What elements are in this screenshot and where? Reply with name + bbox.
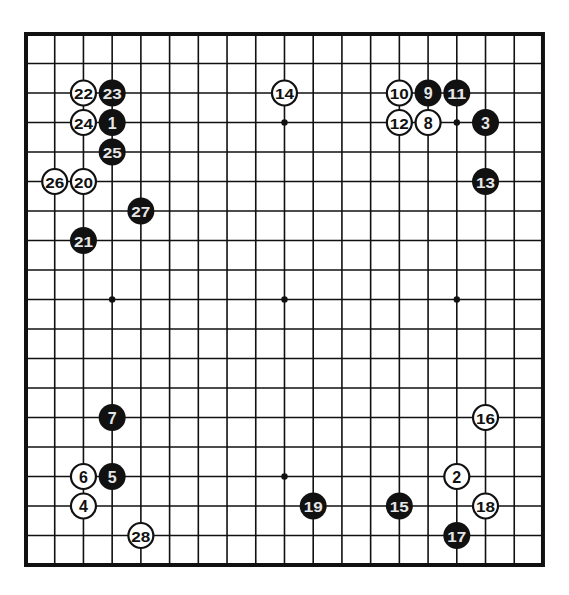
star-point bbox=[454, 296, 460, 302]
move-number: 18 bbox=[476, 498, 495, 515]
black-stone-13: 13 bbox=[472, 168, 499, 195]
move-number: 15 bbox=[390, 498, 409, 515]
move-number: 6 bbox=[79, 469, 88, 486]
white-stone-18: 18 bbox=[473, 494, 498, 519]
black-stone-7: 7 bbox=[99, 404, 126, 431]
move-number: 22 bbox=[74, 85, 93, 102]
move-number: 21 bbox=[74, 233, 93, 250]
move-number: 11 bbox=[447, 85, 466, 102]
move-number: 25 bbox=[103, 144, 122, 161]
star-point bbox=[109, 296, 115, 302]
move-number: 24 bbox=[74, 115, 94, 132]
move-number: 26 bbox=[45, 174, 64, 191]
black-stone-3: 3 bbox=[472, 109, 499, 136]
black-stone-23: 23 bbox=[99, 80, 126, 107]
white-stone-8: 8 bbox=[416, 110, 441, 135]
white-stone-6: 6 bbox=[71, 464, 96, 489]
black-stone-27: 27 bbox=[127, 198, 154, 225]
white-stone-16: 16 bbox=[473, 405, 498, 430]
move-number: 28 bbox=[131, 528, 150, 545]
move-number: 14 bbox=[275, 85, 295, 102]
move-number: 9 bbox=[424, 85, 433, 102]
move-number: 10 bbox=[390, 85, 409, 102]
black-stone-25: 25 bbox=[99, 139, 126, 166]
white-stone-2: 2 bbox=[444, 464, 469, 489]
move-number: 20 bbox=[74, 174, 93, 191]
black-stone-11: 11 bbox=[443, 80, 470, 107]
white-stone-20: 20 bbox=[71, 169, 96, 194]
white-stone-4: 4 bbox=[71, 494, 96, 519]
black-stone-5: 5 bbox=[99, 463, 126, 490]
black-stone-17: 17 bbox=[443, 522, 470, 549]
move-number: 7 bbox=[108, 410, 117, 427]
white-stone-10: 10 bbox=[387, 81, 412, 106]
star-point bbox=[281, 296, 287, 302]
white-stone-24: 24 bbox=[71, 110, 96, 135]
move-number: 19 bbox=[304, 498, 323, 515]
stones-layer: 1234567891011121314151617181920212223242… bbox=[42, 80, 499, 550]
move-number: 27 bbox=[131, 203, 150, 220]
move-number: 16 bbox=[476, 410, 495, 427]
move-number: 8 bbox=[424, 115, 433, 132]
move-number: 1 bbox=[108, 115, 117, 132]
white-stone-26: 26 bbox=[42, 169, 67, 194]
black-stone-15: 15 bbox=[386, 493, 413, 520]
go-board-diagram: 1234567891011121314151617181920212223242… bbox=[0, 0, 569, 595]
star-point bbox=[281, 473, 287, 479]
black-stone-19: 19 bbox=[300, 493, 327, 520]
move-number: 23 bbox=[103, 85, 122, 102]
move-number: 2 bbox=[452, 469, 461, 486]
black-stone-9: 9 bbox=[415, 80, 442, 107]
move-number: 5 bbox=[108, 469, 117, 486]
move-number: 17 bbox=[447, 528, 466, 545]
white-stone-28: 28 bbox=[128, 523, 153, 548]
black-stone-1: 1 bbox=[99, 109, 126, 136]
star-point bbox=[281, 119, 287, 125]
move-number: 13 bbox=[476, 174, 495, 191]
move-number: 3 bbox=[481, 115, 490, 132]
star-point bbox=[454, 119, 460, 125]
white-stone-12: 12 bbox=[387, 110, 412, 135]
black-stone-21: 21 bbox=[70, 227, 97, 254]
white-stone-22: 22 bbox=[71, 81, 96, 106]
move-number: 12 bbox=[390, 115, 409, 132]
white-stone-14: 14 bbox=[272, 81, 297, 106]
move-number: 4 bbox=[79, 498, 88, 515]
